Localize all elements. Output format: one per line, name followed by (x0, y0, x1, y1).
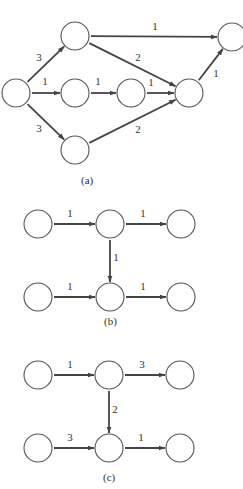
node-circle-b-b2 (96, 283, 124, 311)
edge-weight-label: 1 (95, 75, 101, 87)
node-circle-b-b3 (167, 283, 195, 311)
edge-weight-label: 1 (140, 207, 146, 219)
node-circle-c-a1 (24, 361, 52, 389)
edge-weight-label: 1 (67, 358, 73, 370)
edge-arrow-a-j-e (199, 49, 223, 80)
edge-weight-label: 3 (36, 122, 42, 134)
node-circle-b-a3 (167, 210, 195, 238)
edge-weight-label: 2 (112, 403, 118, 415)
node-circle-c-b2 (95, 434, 123, 462)
diagram-caption-a: (a) (81, 174, 94, 187)
edge-weight-label: 1 (67, 207, 73, 219)
node-circle-a-e (218, 23, 243, 51)
edge-weight-label: 2 (135, 51, 141, 63)
edge-weight-label: 1 (113, 251, 119, 263)
edge-arrow-a-t-e (91, 36, 217, 37)
node-circle-b-a2 (96, 210, 124, 238)
node-circle-a-m1 (61, 79, 89, 107)
node-circle-c-a3 (166, 361, 194, 389)
node-circle-b-a1 (24, 210, 52, 238)
edge-weight-label: 1 (148, 76, 154, 88)
diagram-caption-b: (b) (104, 315, 117, 328)
node-circle-c-a2 (95, 361, 123, 389)
node-circle-a-m2 (117, 79, 145, 107)
network-diagrams: 313121121(a)11111(b)13231(c) (0, 0, 243, 489)
edge-weight-label: 3 (139, 358, 145, 370)
node-circle-a-j (175, 79, 203, 107)
edge-weight-label: 1 (67, 280, 73, 292)
edge-weight-label: 2 (135, 123, 141, 135)
edge-weight-label: 3 (36, 51, 42, 63)
node-circle-b-b1 (24, 283, 52, 311)
node-circle-a-t (61, 22, 89, 50)
edge-weight-label: 1 (213, 67, 219, 79)
node-circle-a-b (61, 136, 89, 164)
node-circle-a-s (2, 79, 30, 107)
node-circle-c-b3 (166, 434, 194, 462)
edge-weight-label: 1 (152, 20, 158, 32)
edge-weight-label: 1 (140, 280, 146, 292)
edge-weight-label: 1 (138, 431, 144, 443)
edge-weight-label: 1 (42, 75, 48, 87)
edge-weight-label: 3 (67, 431, 73, 443)
edge-arrow-a-s-b (28, 104, 65, 139)
diagram-caption-c: (c) (103, 471, 116, 484)
node-circle-c-b1 (24, 434, 52, 462)
